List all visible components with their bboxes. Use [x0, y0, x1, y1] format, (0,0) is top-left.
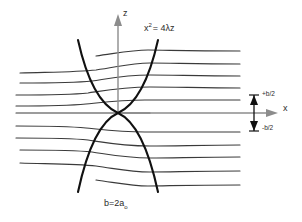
parabolic-field-diagram	[0, 0, 302, 222]
figure-background	[0, 0, 302, 222]
